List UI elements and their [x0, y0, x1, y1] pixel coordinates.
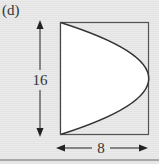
width-label: 8 — [97, 140, 105, 156]
arrowhead-right-icon — [139, 145, 148, 152]
arrowhead-left-icon — [56, 145, 65, 152]
bottom-rule — [0, 159, 159, 161]
height-label: 16 — [33, 72, 49, 88]
arrowhead-down-icon — [37, 128, 44, 137]
parabola-diagram: 16 8 — [0, 0, 159, 164]
arrowhead-up-icon — [37, 20, 44, 29]
